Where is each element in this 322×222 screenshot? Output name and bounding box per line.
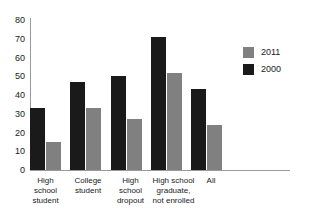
bar-group <box>191 20 222 170</box>
bar-2000 <box>111 76 126 170</box>
bar-2011 <box>46 142 61 170</box>
bar-groups <box>30 20 222 170</box>
legend-swatch <box>243 47 254 58</box>
plot-area: 01020304050607080 <box>30 20 222 170</box>
bar-2000 <box>151 37 166 170</box>
legend-label: 2000 <box>261 65 281 74</box>
bar-group <box>111 20 142 170</box>
bar-2000 <box>70 82 85 170</box>
x-axis-label: Highschooldropout <box>115 176 146 206</box>
x-axis-labels: HighschoolstudentCollegestudentHighschoo… <box>30 176 222 206</box>
y-axis-tick-label: 0 <box>20 166 25 175</box>
x-axis-line <box>30 170 290 171</box>
bar-2011 <box>167 73 182 171</box>
x-axis-label-line: student <box>30 196 61 206</box>
bar-group <box>30 20 61 170</box>
y-axis-tick-label: 40 <box>15 91 25 100</box>
bar-group <box>151 20 182 170</box>
bar-chart: 01020304050607080 HighschoolstudentColle… <box>0 0 322 222</box>
x-axis-label: Highschoolstudent <box>30 176 61 206</box>
bar-2011 <box>207 125 222 170</box>
y-axis-tick-label: 60 <box>15 53 25 62</box>
bar-2011 <box>127 119 142 170</box>
bar-2000 <box>30 108 45 170</box>
x-axis-label-line: All <box>200 176 222 186</box>
bar-2000 <box>191 89 206 170</box>
bar-2011 <box>86 108 101 170</box>
x-axis-label: All <box>200 176 222 206</box>
legend-label: 2011 <box>261 48 280 57</box>
x-axis-label-line: student <box>73 186 104 196</box>
x-axis-label-line: College <box>73 176 104 186</box>
x-axis-label-line: graduate, <box>148 186 200 196</box>
x-axis-label-line: dropout <box>115 196 146 206</box>
x-axis-label-line: not enrolled <box>148 196 200 206</box>
x-axis-label-line: school <box>30 186 61 196</box>
legend-swatch <box>243 64 254 75</box>
bar-group <box>70 20 101 170</box>
chart-legend: 20112000 <box>243 44 281 78</box>
y-axis-tick-label: 10 <box>15 147 25 156</box>
x-axis-label-line: High school <box>148 176 200 186</box>
y-axis-tick-label: 30 <box>15 109 25 118</box>
x-axis-label: Collegestudent <box>73 176 104 206</box>
legend-entry: 2000 <box>243 61 281 78</box>
legend-entry: 2011 <box>243 44 281 61</box>
x-axis-label-line: school <box>115 186 146 196</box>
y-axis-tick-label: 80 <box>15 16 25 25</box>
y-axis-tick-label: 20 <box>15 128 25 137</box>
x-axis-label: High schoolgraduate,not enrolled <box>148 176 200 206</box>
x-axis-label-line: High <box>30 176 61 186</box>
y-axis-tick-label: 70 <box>15 34 25 43</box>
y-axis-tick-label: 50 <box>15 72 25 81</box>
x-axis-label-line: High <box>115 176 146 186</box>
